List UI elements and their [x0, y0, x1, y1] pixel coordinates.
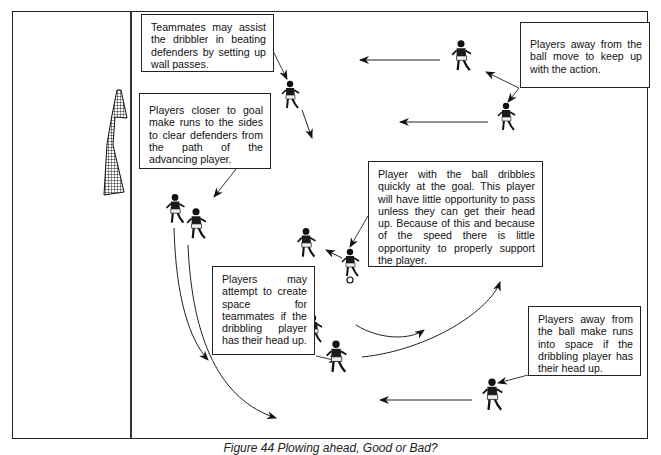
player-figure-icon — [452, 40, 471, 70]
callout-runs-into-space: Players away from the ball make runs int… — [528, 306, 641, 376]
player-figure-icon — [342, 249, 359, 276]
soccer-ball-icon — [347, 277, 353, 283]
callout-wall-passes: Teammates may assist the dribbler in bea… — [141, 14, 274, 72]
player-figure-icon — [167, 194, 185, 223]
player-figure-icon — [483, 379, 503, 410]
callout-create-space: Players may attempt to create space for … — [212, 266, 315, 355]
player-figure-icon — [187, 208, 206, 238]
goal-net-icon — [104, 90, 127, 195]
callout-clear-defenders: Players closer to goal make runs to the … — [139, 93, 271, 169]
player-figure-icon — [327, 341, 347, 372]
figure-caption: Figure 44 Plowing ahead, Good or Bad? — [0, 441, 661, 455]
callout-dribbler: Player with the ball dribbles quickly at… — [368, 161, 543, 267]
player-figure-icon — [298, 228, 316, 257]
player-figure-icon — [282, 81, 299, 108]
callout-keep-up: Players away from the ball move to keep … — [520, 22, 650, 88]
player-figure-icon — [498, 103, 515, 130]
